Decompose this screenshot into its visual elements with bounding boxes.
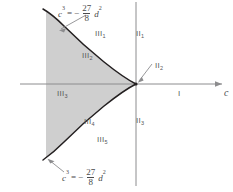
region-III-5: III5	[97, 136, 108, 144]
region-III-5-base: III	[97, 135, 105, 144]
equation-top-lhs-exponent: 3	[62, 5, 65, 11]
cusp-diagram-figure: c3 = − 27 8 d2 c3 = − 27 8 d2 III1II2II3…	[0, 0, 233, 192]
equation-top-fraction: 27 8	[81, 4, 92, 23]
region-III-3: III3	[57, 90, 68, 98]
equation-top: c3 = − 27 8 d2	[58, 4, 102, 23]
region-I-base: I	[178, 89, 181, 98]
region-III-2-subscript: 2	[90, 55, 93, 61]
horizontal-axis-arrow	[215, 81, 222, 87]
equation-top-numerator: 27	[81, 4, 92, 13]
region-I: I	[178, 90, 181, 98]
equation-top-relation: =	[67, 9, 72, 18]
equation-bottom-sign: −	[78, 173, 83, 182]
region-III-3-subscript: 3	[65, 93, 68, 99]
region-III-1-base: III	[95, 29, 103, 38]
cusp-point-marker	[134, 82, 137, 85]
equation-bottom-rhs-exponent: 2	[103, 169, 106, 175]
region-III-4-subscript: 4	[92, 121, 95, 127]
region-III-4-base: III	[84, 117, 92, 126]
equation-top-rhs-exponent: 2	[99, 5, 102, 11]
region-III-1-subscript: 1	[103, 33, 106, 39]
region-III-1: III1	[95, 30, 106, 38]
region-III-3-base: III	[57, 89, 65, 98]
region-III-4: III4	[84, 118, 95, 126]
equation-top-rhs-var: d	[94, 9, 99, 19]
region-II-1: II1	[136, 30, 144, 38]
equation-bottom-rhs-var: d	[98, 173, 103, 183]
region-III-5-subscript: 5	[105, 139, 108, 145]
equation-bottom-fraction: 27 8	[85, 168, 96, 187]
axis-label-c: c	[224, 88, 228, 98]
equation-bottom-numerator: 27	[85, 168, 96, 177]
equation-bottom-lhs-exponent: 3	[66, 169, 69, 175]
region-II-3: II3	[136, 117, 144, 125]
region-II-2: II2	[155, 62, 163, 70]
diagram-canvas	[0, 0, 233, 192]
equation-bottom: c3 = − 27 8 d2	[62, 168, 106, 187]
region-III-2: III2	[82, 52, 93, 60]
equation-bottom-denominator: 8	[87, 177, 94, 187]
equation-bottom-relation: =	[71, 173, 76, 182]
leader-arrow-region-II-2	[138, 64, 152, 83]
region-II-2-subscript: 2	[160, 65, 163, 71]
region-II-1-subscript: 1	[141, 33, 144, 39]
region-II-3-subscript: 3	[141, 120, 144, 126]
region-III-2-base: III	[82, 51, 90, 60]
equation-top-denominator: 8	[83, 13, 90, 23]
equation-top-sign: −	[74, 9, 79, 18]
